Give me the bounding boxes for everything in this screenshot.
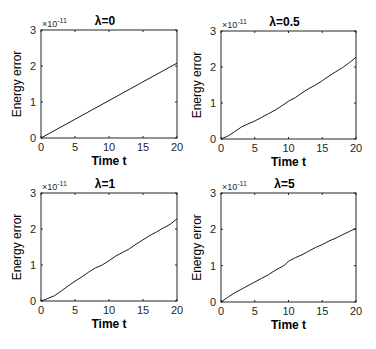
x-tick-label: 20	[171, 141, 183, 153]
x-tick-label: 5	[252, 305, 258, 317]
axes-box	[41, 193, 177, 301]
x-tick-label: 15	[316, 305, 328, 317]
y-tick-label: 2	[30, 223, 36, 235]
y-tick-label: 3	[210, 25, 216, 37]
y-tick-label: 3	[30, 187, 36, 199]
x-tick-label: 0	[38, 141, 44, 153]
y-tick-label: 2	[210, 223, 216, 235]
energy-error-line	[41, 219, 177, 301]
x-axis-label: Time t	[271, 318, 306, 332]
x-tick-label: 20	[350, 305, 362, 317]
x-tick-label: 5	[72, 304, 78, 316]
y-axis-label: Energy error	[10, 214, 24, 281]
y-tick-label: 0	[30, 132, 36, 144]
x-tick-label: 10	[282, 142, 294, 154]
y-tick-label: 0	[210, 296, 216, 308]
x-tick-label: 10	[103, 141, 115, 153]
y-tick-label: 3	[30, 24, 36, 36]
x-tick-label: 15	[316, 142, 328, 154]
x-tick-label: 20	[171, 304, 183, 316]
x-tick-label: 20	[350, 142, 362, 154]
panel-title: λ=5	[274, 177, 295, 191]
y-exponent-label: ×10-11	[42, 180, 67, 192]
y-exponent-label: ×10-11	[222, 18, 247, 30]
y-axis-label: Energy error	[10, 51, 24, 118]
axes-box	[41, 30, 177, 138]
y-tick-label: 0	[210, 133, 216, 145]
y-tick-label: 1	[30, 259, 36, 271]
y-tick-label: 2	[30, 60, 36, 72]
x-tick-label: 5	[252, 142, 258, 154]
energy-error-line	[221, 228, 356, 302]
y-axis-label: Energy error	[190, 214, 204, 281]
y-tick-label: 1	[210, 260, 216, 272]
x-tick-label: 15	[137, 304, 149, 316]
y-axis-label: Energy error	[190, 52, 204, 119]
figure: 051015200123×10-11λ=0Time tEnergy error0…	[0, 0, 376, 349]
y-exponent-label: ×10-11	[222, 180, 247, 192]
panel-title: λ=1	[95, 177, 116, 191]
axes-box	[221, 31, 356, 139]
y-tick-label: 0	[30, 295, 36, 307]
energy-error-line	[221, 57, 356, 139]
x-tick-label: 0	[218, 142, 224, 154]
y-exponent-label: ×10-11	[42, 17, 67, 29]
x-axis-label: Time t	[271, 155, 306, 169]
axes-box	[221, 193, 356, 302]
x-tick-label: 0	[218, 305, 224, 317]
y-tick-label: 2	[210, 61, 216, 73]
y-tick-label: 1	[210, 97, 216, 109]
energy-error-line	[41, 63, 177, 138]
y-tick-label: 1	[30, 96, 36, 108]
panel-title: λ=0.5	[269, 15, 300, 29]
y-tick-label: 3	[210, 187, 216, 199]
x-tick-label: 10	[282, 305, 294, 317]
x-tick-label: 15	[137, 141, 149, 153]
x-tick-label: 10	[103, 304, 115, 316]
x-tick-label: 5	[72, 141, 78, 153]
panel-title: λ=0	[95, 14, 116, 28]
x-axis-label: Time t	[91, 154, 126, 168]
x-tick-label: 0	[38, 304, 44, 316]
x-axis-label: Time t	[91, 317, 126, 331]
